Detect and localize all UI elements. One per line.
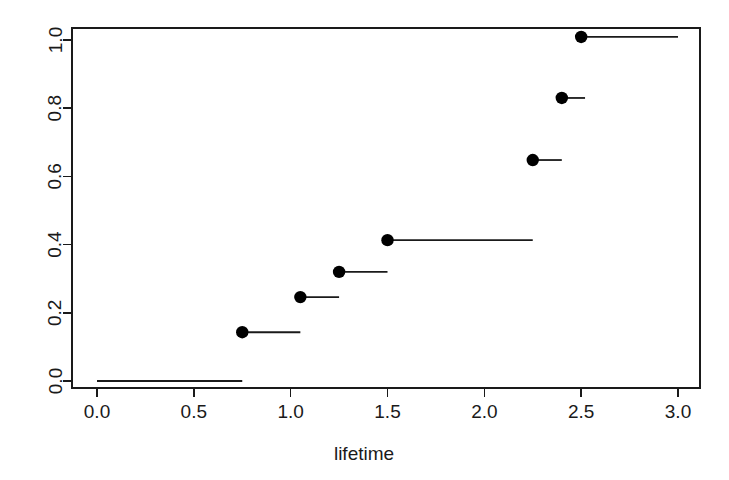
x-tick-label-0.0: 0.0: [84, 401, 110, 422]
plot-box-border: [72, 28, 700, 388]
ecdf-plot-canvas: 0.00.51.01.52.02.53.0 0.00.20.40.60.81.0…: [0, 0, 729, 480]
x-tick-label-1.0: 1.0: [277, 401, 303, 422]
data-point-0: [236, 326, 248, 338]
y-tick-label-0.4: 0.4: [45, 231, 66, 258]
x-axis-title: lifetime: [334, 443, 394, 464]
x-tick-label-0.5: 0.5: [181, 401, 207, 422]
y-tick-label-0.8: 0.8: [45, 95, 66, 121]
y-tick-label-0.6: 0.6: [45, 163, 66, 189]
data-point-6: [575, 31, 587, 43]
x-tick-label-3.0: 3.0: [665, 401, 691, 422]
y-tick-label-1.0: 1.0: [45, 27, 66, 53]
x-tick-label-2.5: 2.5: [568, 401, 594, 422]
data-point-4: [527, 154, 539, 166]
y-tick-label-0.0: 0.0: [45, 368, 66, 394]
x-tick-label-1.5: 1.5: [374, 401, 400, 422]
x-axis-tick-labels: 0.00.51.01.52.02.53.0: [84, 401, 691, 422]
x-axis-ticks: [97, 388, 678, 397]
step-function-segments: [97, 37, 678, 381]
data-point-3: [381, 234, 393, 246]
ecdf-chart: 0.00.51.01.52.02.53.0 0.00.20.40.60.81.0…: [0, 0, 729, 480]
y-tick-label-0.2: 0.2: [45, 300, 66, 326]
y-axis-ticks: [63, 40, 72, 381]
x-tick-label-2.0: 2.0: [471, 401, 497, 422]
step-jump-point-markers: [236, 31, 587, 339]
data-point-5: [556, 92, 568, 104]
plot-frame: [72, 28, 700, 388]
data-point-2: [333, 266, 345, 278]
y-axis-tick-labels: 0.00.20.40.60.81.0: [45, 27, 66, 394]
data-point-1: [294, 291, 306, 303]
